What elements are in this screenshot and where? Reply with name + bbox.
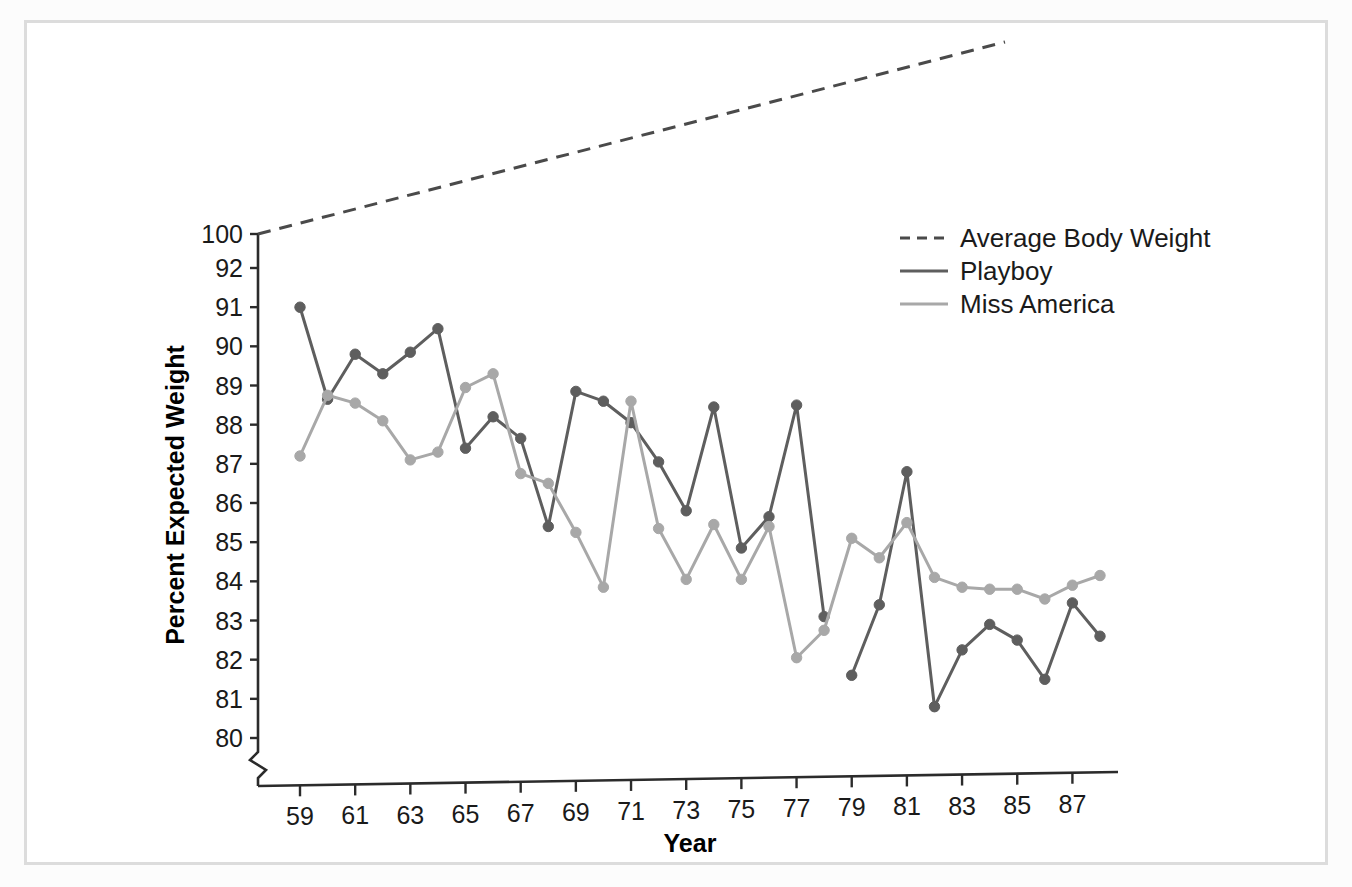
y-tick-label: 81 xyxy=(215,685,243,713)
x-tick-label: 71 xyxy=(617,797,645,825)
legend-label: Average Body Weight xyxy=(960,223,1211,253)
x-tick-label: 75 xyxy=(727,795,755,823)
x-tick-label: 77 xyxy=(783,794,811,822)
data-point xyxy=(350,349,360,359)
data-point xyxy=(681,506,691,516)
data-point xyxy=(791,653,801,663)
y-tick-label: 83 xyxy=(215,607,243,635)
data-point xyxy=(516,468,526,478)
data-point xyxy=(295,451,305,461)
data-point xyxy=(405,455,415,465)
data-point xyxy=(295,302,305,312)
x-tick-label: 81 xyxy=(893,792,921,820)
data-point xyxy=(1067,580,1077,590)
legend-label: Miss America xyxy=(960,289,1115,319)
y-tick-label: 82 xyxy=(215,646,243,674)
x-tick-label: 61 xyxy=(341,801,369,829)
data-point xyxy=(736,543,746,553)
axis-break-marker xyxy=(250,740,266,786)
x-tick-label: 65 xyxy=(452,800,480,828)
series-miss-america xyxy=(295,369,1105,663)
y-tick-label: 90 xyxy=(215,332,243,360)
series-group xyxy=(258,42,1105,712)
data-point xyxy=(1040,674,1050,684)
data-point xyxy=(709,402,719,412)
data-point xyxy=(653,523,663,533)
data-point xyxy=(929,702,939,712)
y-tick-label: 87 xyxy=(215,450,243,478)
y-tick-label: 80 xyxy=(215,724,243,752)
data-point xyxy=(847,670,857,680)
data-point xyxy=(957,645,967,655)
data-point xyxy=(433,447,443,457)
y-tick-label: 84 xyxy=(215,567,243,595)
data-point xyxy=(598,396,608,406)
data-point xyxy=(791,400,801,410)
data-point xyxy=(350,398,360,408)
data-point xyxy=(902,517,912,527)
x-axis-title: Year xyxy=(664,829,717,857)
data-point xyxy=(764,512,774,522)
data-point xyxy=(1040,594,1050,604)
data-point xyxy=(985,584,995,594)
trend-line-average-body-weight xyxy=(258,42,1005,234)
y-tick-label: 85 xyxy=(215,528,243,556)
x-tick-label: 59 xyxy=(286,802,314,830)
x-tick-label: 73 xyxy=(672,796,700,824)
x-tick-label: 63 xyxy=(396,801,424,829)
x-tick-label: 85 xyxy=(1003,791,1031,819)
data-point xyxy=(764,521,774,531)
data-point xyxy=(571,527,581,537)
data-point xyxy=(543,478,553,488)
y-tick-label: 86 xyxy=(215,489,243,517)
data-point xyxy=(488,412,498,422)
data-point xyxy=(1095,631,1105,641)
data-point xyxy=(433,324,443,334)
line-chart: 1009291908988878685848382818059616365676… xyxy=(0,0,1352,887)
data-point xyxy=(488,369,498,379)
y-axis-title: Percent Expected Weight xyxy=(161,345,189,645)
y-tick-label: 100 xyxy=(201,220,243,248)
x-tick-label: 67 xyxy=(507,799,535,827)
x-tick-label: 87 xyxy=(1059,790,1087,818)
data-point xyxy=(736,574,746,584)
x-axis-line xyxy=(258,772,1118,786)
data-point xyxy=(653,457,663,467)
series-playboy xyxy=(295,302,1105,712)
y-tick-label: 88 xyxy=(215,411,243,439)
figure-page: 1009291908988878685848382818059616365676… xyxy=(0,0,1352,887)
series-line xyxy=(300,374,1100,658)
y-tick-label: 92 xyxy=(215,254,243,282)
data-point xyxy=(598,582,608,592)
data-point xyxy=(902,467,912,477)
data-point xyxy=(681,574,691,584)
data-point xyxy=(957,582,967,592)
data-point xyxy=(460,382,470,392)
x-tick-label: 69 xyxy=(562,798,590,826)
data-point xyxy=(322,390,332,400)
legend-label: Playboy xyxy=(960,256,1053,286)
data-point xyxy=(1067,598,1077,608)
data-point xyxy=(405,347,415,357)
x-tick-label: 83 xyxy=(948,792,976,820)
data-point xyxy=(626,396,636,406)
data-point xyxy=(543,521,553,531)
data-point xyxy=(929,572,939,582)
data-point xyxy=(847,533,857,543)
data-point xyxy=(874,600,884,610)
data-point xyxy=(709,519,719,529)
data-point xyxy=(378,369,388,379)
data-point xyxy=(1012,635,1022,645)
data-point xyxy=(378,416,388,426)
data-point xyxy=(874,553,884,563)
data-point xyxy=(985,619,995,629)
data-point xyxy=(1095,570,1105,580)
data-point xyxy=(516,433,526,443)
data-point xyxy=(460,443,470,453)
y-tick-label: 89 xyxy=(215,372,243,400)
data-point xyxy=(819,625,829,635)
x-tick-label: 79 xyxy=(838,793,866,821)
series-average-body-weight xyxy=(258,42,1005,234)
data-point xyxy=(1012,584,1022,594)
data-point xyxy=(571,386,581,396)
